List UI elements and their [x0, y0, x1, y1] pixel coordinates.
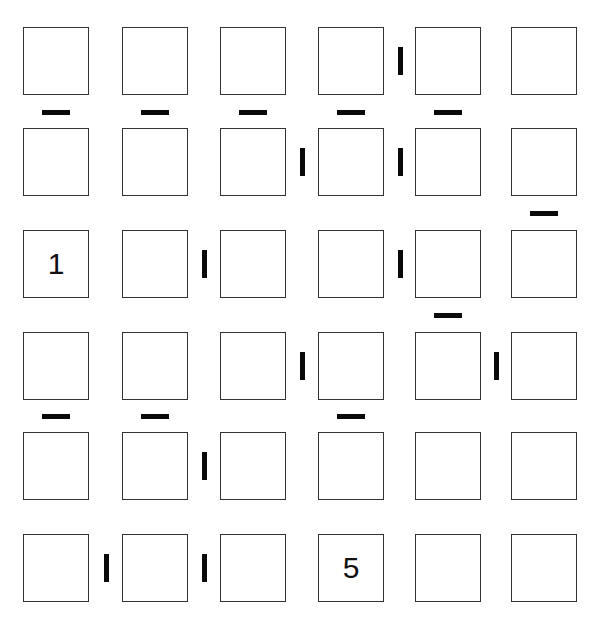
cell-r4-c5[interactable] — [511, 432, 577, 500]
consecutive-bar-vertical — [300, 148, 305, 176]
consecutive-bar-vertical — [398, 47, 403, 75]
cell-r2-c1[interactable] — [122, 230, 188, 298]
consecutive-bar-vertical — [104, 554, 109, 582]
cell-r4-c1[interactable] — [122, 432, 188, 500]
consecutive-bar-horizontal — [337, 414, 365, 419]
consecutive-bar-horizontal — [42, 110, 70, 115]
consecutive-bar-vertical — [202, 554, 207, 582]
consecutive-bar-vertical — [398, 148, 403, 176]
cell-r5-c3[interactable]: 5 — [318, 534, 384, 602]
cell-r4-c4[interactable] — [415, 432, 481, 500]
consecutive-bar-horizontal — [239, 110, 267, 115]
cell-r1-c1[interactable] — [122, 128, 188, 196]
cell-r0-c0[interactable] — [23, 27, 89, 95]
cell-r5-c5[interactable] — [511, 534, 577, 602]
cell-r2-c4[interactable] — [415, 230, 481, 298]
consecutive-bar-horizontal — [434, 313, 462, 318]
cell-r2-c3[interactable] — [318, 230, 384, 298]
consecutive-bar-vertical — [202, 452, 207, 480]
cell-r4-c2[interactable] — [220, 432, 286, 500]
cell-r4-c3[interactable] — [318, 432, 384, 500]
cell-r1-c0[interactable] — [23, 128, 89, 196]
cell-r3-c5[interactable] — [511, 332, 577, 400]
cell-r3-c0[interactable] — [23, 332, 89, 400]
given-digit: 5 — [343, 551, 360, 585]
consecutive-bar-horizontal — [141, 110, 169, 115]
given-digit: 1 — [48, 247, 65, 281]
cell-r2-c2[interactable] — [220, 230, 286, 298]
cell-r1-c4[interactable] — [415, 128, 481, 196]
cell-r3-c2[interactable] — [220, 332, 286, 400]
consecutive-bar-vertical — [398, 250, 403, 278]
cell-r5-c2[interactable] — [220, 534, 286, 602]
cell-r5-c0[interactable] — [23, 534, 89, 602]
cell-r3-c1[interactable] — [122, 332, 188, 400]
consecutive-bar-horizontal — [141, 414, 169, 419]
cell-r0-c3[interactable] — [318, 27, 384, 95]
cell-r2-c0[interactable]: 1 — [23, 230, 89, 298]
cell-r1-c2[interactable] — [220, 128, 286, 196]
consecutive-bar-horizontal — [42, 414, 70, 419]
cell-r4-c0[interactable] — [23, 432, 89, 500]
consecutive-bar-vertical — [202, 250, 207, 278]
cell-r1-c3[interactable] — [318, 128, 384, 196]
consecutive-bar-vertical — [300, 352, 305, 380]
cell-r2-c5[interactable] — [511, 230, 577, 298]
cell-r3-c4[interactable] — [415, 332, 481, 400]
consecutive-bar-vertical — [494, 352, 499, 380]
cell-r0-c4[interactable] — [415, 27, 481, 95]
cell-r0-c2[interactable] — [220, 27, 286, 95]
consecutive-bar-horizontal — [434, 110, 462, 115]
cell-r5-c4[interactable] — [415, 534, 481, 602]
cell-r5-c1[interactable] — [122, 534, 188, 602]
cell-r0-c5[interactable] — [511, 27, 577, 95]
consecutive-bar-horizontal — [530, 211, 558, 216]
cell-r1-c5[interactable] — [511, 128, 577, 196]
cell-r0-c1[interactable] — [122, 27, 188, 95]
cell-r3-c3[interactable] — [318, 332, 384, 400]
consecutive-bar-horizontal — [337, 110, 365, 115]
